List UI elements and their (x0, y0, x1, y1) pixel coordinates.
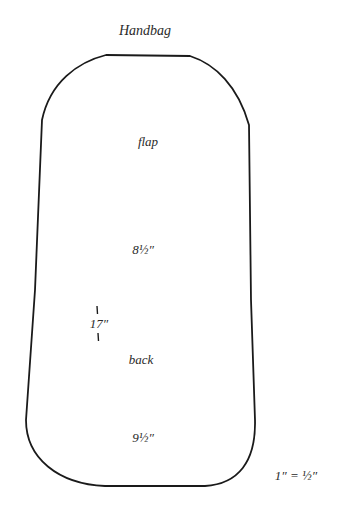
dimension-tick-bottom (98, 333, 99, 341)
scale-note: 1″ = ½″ (275, 468, 317, 484)
pattern-outline-path (26, 55, 255, 486)
flap-label: flap (138, 134, 158, 150)
pattern-title: Handbag (119, 23, 171, 39)
dimension-tick-top (97, 306, 98, 314)
flap-dimension: 8½″ (132, 242, 154, 258)
back-dimension: 9½″ (132, 430, 154, 446)
back-label: back (129, 352, 154, 368)
handbag-pattern-outline (0, 0, 339, 519)
total-length-dimension: 17″ (90, 316, 108, 332)
